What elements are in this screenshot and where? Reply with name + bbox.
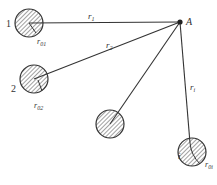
radius-r0i-label: r0i: [205, 160, 213, 170]
distance-ri-label: ri: [190, 82, 196, 93]
line-r3: [110, 22, 180, 124]
point-a-label: A: [185, 16, 193, 27]
source-circle-1: [15, 9, 43, 37]
source-2-label: 2: [11, 83, 16, 94]
distance-r1-label: r1: [88, 11, 95, 22]
source-circle-3: [96, 110, 124, 138]
source-1-label: 1: [6, 18, 11, 29]
source-circle-2: [20, 65, 48, 93]
source-circle-i: [178, 138, 206, 166]
distance-r2-label: r2: [106, 40, 113, 51]
radius-r01-label: r01: [37, 37, 46, 47]
line-r2: [34, 22, 180, 79]
line-r1: [29, 22, 180, 23]
point-a-dot: [177, 19, 182, 24]
line-ri: [180, 22, 190, 143]
radius-r02-label: r02: [34, 101, 43, 111]
radiation-sources-diagram: A 1 2 i r1 r01 r2 r02 ri r0i: [0, 0, 217, 185]
